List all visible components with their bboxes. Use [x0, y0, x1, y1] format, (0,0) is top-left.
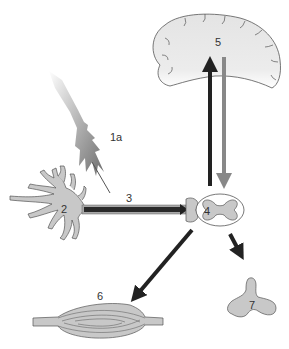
label-muscle: 6 — [97, 291, 103, 302]
gland-arrow — [230, 234, 240, 253]
neuron-body-shape — [10, 166, 86, 240]
muscle-shape — [33, 304, 163, 339]
label-axon: 3 — [126, 193, 132, 204]
receptor-shape — [49, 71, 110, 193]
axon-shape — [82, 198, 198, 222]
gland-shape — [228, 278, 277, 317]
nervous-system-diagram — [0, 0, 289, 349]
label-neuron-body: 2 — [61, 204, 67, 215]
label-spinal-cord: 4 — [204, 206, 210, 217]
brain-shape — [153, 14, 280, 88]
label-brain: 5 — [215, 37, 221, 48]
label-gland: 7 — [249, 300, 255, 311]
label-receptor: 1a — [110, 132, 122, 143]
motor-arrow — [136, 230, 192, 296]
